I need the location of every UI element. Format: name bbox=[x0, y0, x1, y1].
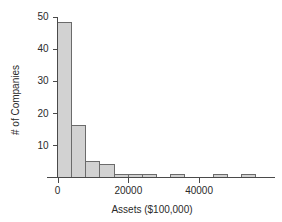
y-axis-title: # of Companies bbox=[10, 65, 21, 135]
histogram-bars bbox=[58, 23, 256, 178]
histogram-bar bbox=[72, 126, 86, 178]
y-tick-label: 30 bbox=[37, 75, 49, 86]
y-tick-label: 40 bbox=[37, 43, 49, 54]
y-axis-ticks: 5040302010 bbox=[37, 11, 57, 151]
y-tick-label: 20 bbox=[37, 108, 49, 119]
y-tick-label: 50 bbox=[37, 11, 49, 22]
histogram-plot: 5040302010 02000040000 Assets ($100,000)… bbox=[0, 0, 282, 222]
histogram-figure: 5040302010 02000040000 Assets ($100,000)… bbox=[0, 0, 282, 222]
x-tick-label: 40000 bbox=[185, 185, 213, 196]
x-tick-label: 0 bbox=[55, 185, 61, 196]
x-tick-label: 20000 bbox=[114, 185, 142, 196]
x-axis-title: Assets ($100,000) bbox=[111, 204, 192, 215]
histogram-bar bbox=[58, 23, 72, 178]
histogram-bar bbox=[86, 161, 100, 177]
x-axis-ticks: 02000040000 bbox=[55, 178, 214, 196]
histogram-bar bbox=[100, 165, 114, 178]
y-tick-label: 10 bbox=[37, 140, 49, 151]
